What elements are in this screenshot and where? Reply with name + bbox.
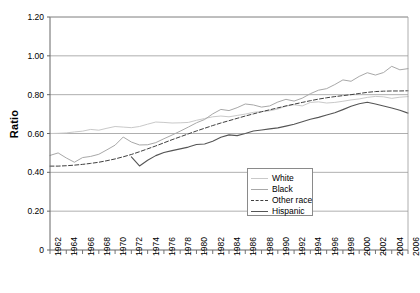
legend-item-white: White [251, 173, 294, 184]
x-tick-label: 1992 [298, 216, 307, 256]
y-tick-label: 0.40 [4, 168, 44, 177]
series-line-white [50, 96, 408, 133]
x-tick-label: 1980 [200, 216, 209, 256]
y-tick-label: 0 [4, 246, 44, 255]
y-tick-label: 0.80 [4, 91, 44, 100]
legend-swatch-icon [251, 189, 268, 190]
x-tick-label: 1994 [314, 216, 323, 256]
ratio-line-chart: Ratio WhiteBlackOther raceHispanic 00.20… [0, 0, 420, 293]
legend-label: Other race [272, 196, 312, 205]
x-tick-label: 1970 [119, 216, 128, 256]
plot-area [0, 0, 420, 293]
x-tick-label: 1998 [347, 216, 356, 256]
x-tick-label: 1962 [54, 216, 63, 256]
legend-label: Hispanic [272, 207, 305, 216]
x-tick-label: 1976 [168, 216, 177, 256]
legend-label: White [272, 174, 294, 183]
legend-swatch-icon [251, 200, 268, 201]
y-tick-label: 1.00 [4, 52, 44, 61]
y-tick-label: 0.60 [4, 130, 44, 139]
legend-item-black: Black [251, 184, 293, 195]
x-tick-label: 1966 [87, 216, 96, 256]
series-line-other-race [50, 91, 408, 166]
x-tick-label: 1968 [103, 216, 112, 256]
x-tick-label: 2002 [379, 216, 388, 256]
legend-item-hispanic: Hispanic [251, 206, 305, 217]
x-tick-label: 2006 [412, 216, 420, 256]
series-line-black [50, 66, 408, 162]
x-tick-label: 1986 [249, 216, 258, 256]
x-tick-label: 1978 [184, 216, 193, 256]
legend-item-other-race: Other race [251, 195, 312, 206]
x-tick-label: 1972 [135, 216, 144, 256]
x-tick-label: 1974 [152, 216, 161, 256]
x-tick-label: 1996 [331, 216, 340, 256]
x-tick-label: 1964 [70, 216, 79, 256]
x-tick-label: 2004 [396, 216, 405, 256]
x-tick-label: 1988 [266, 216, 275, 256]
legend-swatch-icon [251, 211, 268, 212]
y-tick-label: 1.20 [4, 13, 44, 22]
x-tick-label: 1990 [282, 216, 291, 256]
chart-legend: WhiteBlackOther raceHispanic [247, 168, 313, 216]
y-tick-label: 0.20 [4, 207, 44, 216]
legend-swatch-icon [251, 178, 268, 179]
x-tick-label: 1982 [217, 216, 226, 256]
x-tick-label: 2000 [363, 216, 372, 256]
legend-label: Black [272, 185, 293, 194]
series-line-hispanic [131, 102, 408, 166]
x-tick-label: 1984 [233, 216, 242, 256]
